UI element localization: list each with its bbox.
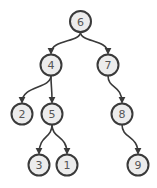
node-label: 2 <box>19 108 26 121</box>
node-label: 7 <box>105 59 112 72</box>
node-label: 5 <box>49 108 56 121</box>
node-label: 8 <box>119 108 126 121</box>
tree-node-8: 8 <box>112 104 133 125</box>
tree-node-5: 5 <box>42 104 63 125</box>
edge-4-to-2 <box>22 76 51 103</box>
node-label: 1 <box>64 159 71 172</box>
tree-node-9: 9 <box>128 155 149 176</box>
tree-node-1: 1 <box>57 155 78 176</box>
edge-5-to-1 <box>52 125 67 154</box>
tree-node-6: 6 <box>70 11 91 32</box>
node-label: 4 <box>48 59 55 72</box>
edge-7-to-8 <box>108 76 122 103</box>
tree-node-4: 4 <box>41 55 62 76</box>
tree-diagram: 647258319 <box>0 0 157 188</box>
edge-8-to-9 <box>122 125 138 154</box>
node-label: 6 <box>77 16 84 29</box>
edge-4-to-5 <box>51 76 52 103</box>
tree-node-3: 3 <box>29 155 50 176</box>
edge-6-to-7 <box>81 32 109 54</box>
tree-edges <box>22 32 138 154</box>
edge-5-to-3 <box>39 125 52 154</box>
tree-node-7: 7 <box>98 55 119 76</box>
node-label: 3 <box>36 159 43 172</box>
tree-node-2: 2 <box>12 104 33 125</box>
node-label: 9 <box>135 159 142 172</box>
edge-6-to-4 <box>51 32 81 54</box>
